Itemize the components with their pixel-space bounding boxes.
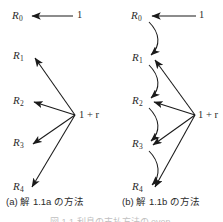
panel-b-source-one-plus-r: 1 + r [198, 110, 218, 121]
panel-b-node-R3: R3 [132, 138, 142, 149]
panel-b-caption: (b) 解 1.1b の方法 [122, 197, 200, 207]
panel-a-node-R4: R4 [13, 181, 23, 192]
panel-b-edges [149, 16, 196, 187]
panel-a-source-one: 1 [77, 10, 82, 21]
edge-b-R3-to-R4 [149, 151, 158, 185]
edge-b-R2-to-R3 [149, 108, 158, 141]
edge-b-fan-to-R4 [155, 115, 195, 187]
figure-number-caption: 図 1.1 利息の支払方法の even [50, 215, 171, 222]
panel-a-node-R3: R3 [13, 137, 23, 148]
figure-page: R0 R1 R2 R3 R4 1 1 + r R0 R1 R2 R3 R4 1 … [0, 0, 223, 222]
panel-b-node-R1: R1 [132, 52, 142, 63]
edge-b-fan-to-R2 [154, 102, 195, 115]
edge-a-fan-to-R4 [32, 115, 75, 187]
panel-a-caption: (a) 解 1.1a の方法 [6, 197, 84, 207]
edge-a-fan-to-R2 [34, 102, 75, 115]
panel-a-node-R2: R2 [13, 95, 23, 106]
edge-b-fan-to-R1 [155, 60, 195, 115]
edge-a-fan-to-R3 [33, 115, 75, 144]
edge-a-fan-to-R1 [35, 58, 75, 115]
panel-a-node-R1: R1 [13, 50, 23, 61]
edge-b-R0-to-R1 [149, 22, 158, 55]
panel-a-source-one-plus-r: 1 + r [79, 110, 99, 121]
panel-a-edges [32, 16, 75, 187]
figure-canvas [0, 0, 223, 222]
panel-b-node-R2: R2 [132, 95, 142, 106]
panel-b-node-R4: R4 [132, 181, 142, 192]
edge-b-R1-to-R2 [149, 65, 158, 98]
panel-b-source-one: 1 [199, 10, 204, 21]
panel-a-node-R0: R0 [12, 10, 22, 21]
edge-b-fan-to-R3 [153, 115, 195, 145]
panel-b-node-R0: R0 [131, 10, 141, 21]
